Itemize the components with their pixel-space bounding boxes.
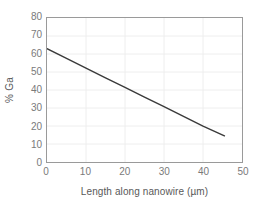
y-tick-label: 50 <box>16 67 42 77</box>
y-tick-label: 70 <box>16 30 42 40</box>
y-axis-tick-labels: 01020304050607080 <box>16 17 42 163</box>
plot-area <box>46 17 243 163</box>
y-tick-label: 60 <box>16 49 42 59</box>
series-polyline <box>47 49 224 136</box>
y-tick-label: 40 <box>16 85 42 95</box>
data-series-line <box>47 18 242 162</box>
y-tick-label: 30 <box>16 103 42 113</box>
x-tick-label: 50 <box>223 166 263 178</box>
x-axis-tick-labels: 01020304050 <box>46 166 243 180</box>
x-tick-label: 10 <box>65 166 105 178</box>
x-tick-label: 30 <box>144 166 184 178</box>
y-tick-label: 20 <box>16 122 42 132</box>
x-tick-label: 0 <box>26 166 66 178</box>
x-tick-label: 40 <box>184 166 224 178</box>
chart-container: % Ga 01020304050607080 01020304050 Lengt… <box>0 0 276 209</box>
x-tick-label: 20 <box>105 166 145 178</box>
y-tick-label: 80 <box>16 12 42 22</box>
y-tick-label: 10 <box>16 140 42 150</box>
x-axis-title: Length along nanowire (µm) <box>36 186 253 197</box>
